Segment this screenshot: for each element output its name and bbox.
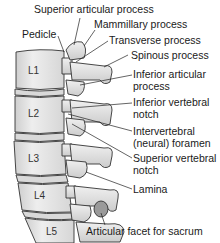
disc-l3-l4 bbox=[16, 175, 68, 184]
label-inferior-vertebral-notch-line2: notch bbox=[133, 109, 159, 120]
vertebra-label-l5: L5 bbox=[46, 226, 58, 237]
leader-spinous bbox=[104, 55, 128, 67]
vertebra-body-l2 bbox=[15, 96, 64, 134]
inferior-articular-process-l2 bbox=[66, 118, 85, 136]
vertebra-label-l3: L3 bbox=[28, 153, 40, 164]
vertebra-label-l1: L1 bbox=[28, 65, 40, 76]
inferior-articular-process-l1 bbox=[66, 80, 84, 96]
label-superior-vertebral-notch-line1: Superior vertebral bbox=[133, 153, 216, 164]
label-articular-facet-for-sacrum: Articular facet for sacrum bbox=[86, 226, 203, 237]
label-transverse-process: Transverse process bbox=[109, 35, 201, 46]
label-intervertebral-foramen-line2: (neural) foramen bbox=[133, 138, 211, 149]
label-spinous-process: Spinous process bbox=[131, 50, 209, 61]
posterior-elements bbox=[62, 42, 124, 242]
vertebra-label-l2: L2 bbox=[28, 108, 40, 119]
inferior-articular-process-l4 bbox=[70, 204, 91, 222]
vertebra-label-l4: L4 bbox=[34, 190, 46, 201]
label-inferior-articular-process-line1: Inferior articular bbox=[133, 69, 206, 80]
leader-pedicle bbox=[58, 36, 64, 52]
leader-mammillary bbox=[84, 30, 95, 46]
disc-l1-l2 bbox=[15, 89, 64, 97]
vertebra-body-l3 bbox=[14, 141, 66, 176]
label-lamina: Lamina bbox=[133, 184, 167, 195]
label-intervertebral-foramen-line1: Intervertebral bbox=[133, 126, 195, 137]
label-inferior-articular-process-line2: process bbox=[133, 81, 170, 92]
label-pedicle: Pedicle bbox=[22, 29, 56, 40]
label-inferior-vertebral-notch-line1: Inferior vertebral bbox=[133, 97, 209, 108]
label-superior-vertebral-notch-line2: notch bbox=[133, 165, 159, 176]
disc-l2-l3 bbox=[15, 133, 64, 142]
leader-superior-articular bbox=[74, 18, 80, 45]
articular-facet-sacrum-shape bbox=[94, 201, 108, 217]
label-mammillary-process: Mammillary process bbox=[94, 19, 187, 30]
leader-lamina bbox=[86, 172, 132, 189]
label-superior-articular-process: Superior articular process bbox=[34, 4, 154, 15]
inferior-articular-process-l3 bbox=[66, 160, 87, 178]
vertebra-body-l1 bbox=[16, 50, 64, 90]
